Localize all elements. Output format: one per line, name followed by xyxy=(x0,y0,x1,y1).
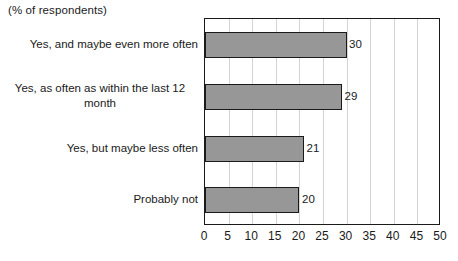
bar-value-label: 21 xyxy=(307,142,320,154)
x-tick-label: 25 xyxy=(315,229,328,243)
category-label-2: Yes, but maybe less often xyxy=(2,140,198,155)
chart-axis-note: (% of respondents) xyxy=(8,4,107,16)
bar-series-item[interactable] xyxy=(205,84,342,110)
x-tick-label: 45 xyxy=(410,229,423,243)
x-tick-label: 10 xyxy=(245,229,258,243)
bar-series-item[interactable] xyxy=(205,32,347,58)
x-axis-tick-labels: 0 5 10 15 20 25 30 35 40 45 50 xyxy=(204,229,440,249)
category-label-0: Yes, and maybe even more often xyxy=(2,37,198,52)
plot-area xyxy=(204,18,440,225)
category-label-1: Yes, as often as within the last 12 mont… xyxy=(2,81,198,111)
bar-series-item[interactable] xyxy=(205,136,304,162)
x-tick-label: 50 xyxy=(433,229,446,243)
x-tick-label: 5 xyxy=(224,229,231,243)
bar-value-label: 20 xyxy=(302,193,315,205)
category-label-1-line2: month xyxy=(2,96,198,111)
category-label-1-line1: Yes, as often as within the last 12 xyxy=(2,81,198,96)
x-tick-label: 0 xyxy=(201,229,208,243)
x-tick-label: 15 xyxy=(268,229,281,243)
bars-layer xyxy=(205,19,439,224)
bar-value-label: 29 xyxy=(345,90,358,102)
x-tick-label: 30 xyxy=(339,229,352,243)
x-tick-label: 40 xyxy=(386,229,399,243)
category-label-3: Probably not xyxy=(2,192,198,207)
x-tick-label: 35 xyxy=(363,229,376,243)
bar-chart: (% of respondents) 30 29 21 20 Yes, and … xyxy=(0,0,458,261)
bar-series-item[interactable] xyxy=(205,187,299,213)
x-tick-label: 20 xyxy=(292,229,305,243)
bar-value-label: 30 xyxy=(349,38,362,50)
